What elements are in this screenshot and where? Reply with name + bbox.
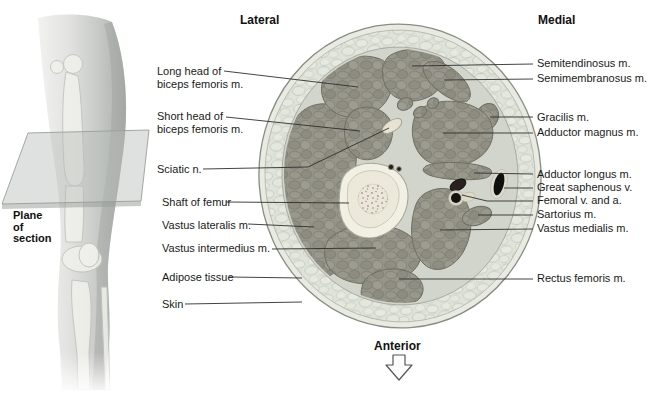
label-sciatic-nerve: Sciatic n. [157, 163, 202, 176]
patella [79, 243, 99, 267]
label-vastus-lateralis: Vastus lateralis m. [162, 219, 251, 232]
label-gracilis: Gracilis m. [537, 111, 589, 124]
label-great-saphenous-vein: Great saphenous v. [537, 181, 632, 194]
plane-label-line: section [13, 233, 52, 245]
label-semitendinosus: Semitendinosus m. [537, 57, 631, 70]
leader-skin [185, 302, 302, 304]
label-adductor-magnus: Adductor magnus m. [537, 126, 639, 139]
femoral-vein-vessel [451, 193, 461, 203]
bone-marrow [358, 184, 388, 214]
perforating-vessel-1 [388, 164, 393, 169]
anterior-arrow-icon [386, 355, 412, 380]
label-adductor-longus: Adductor longus m. [537, 168, 632, 181]
leader-adipose-tissue [229, 277, 302, 278]
label-sartorius: Sartorius m. [537, 208, 596, 221]
anterior-heading: Anterior [374, 339, 421, 353]
leg-bottom-fade [0, 352, 160, 396]
greater-trochanter [51, 61, 64, 74]
label-vastus-intermedius: Vastus intermedius m. [162, 242, 270, 255]
label-short-head-biceps-femoris: Short head of biceps femoris m. [157, 110, 243, 136]
section-plane [2, 130, 149, 204]
label-vastus-medialis: Vastus medialis m. [537, 222, 629, 235]
label-long-head-biceps-femoris: Long head of biceps femoris m. [157, 65, 243, 91]
perforating-vessel-2 [397, 167, 402, 172]
medial-heading: Medial [538, 13, 575, 27]
label-adipose-tissue: Adipose tissue [162, 271, 234, 284]
label-rectus-femoris: Rectus femoris m. [537, 272, 626, 285]
label-semimembranosus: Semimembranosus m. [537, 72, 647, 85]
leg-illustration [0, 15, 160, 396]
figure-thigh-cross-section: Lateral Medial Anterior Plane of section… [0, 0, 651, 396]
label-skin: Skin [162, 298, 183, 311]
label-femoral-vein-artery: Femoral v. and a. [537, 194, 622, 207]
plane-of-section-label: Plane of section [13, 210, 52, 245]
lateral-heading: Lateral [240, 13, 279, 27]
cross-section [249, 15, 552, 338]
plane-label-line: Plane [13, 210, 52, 222]
femur-head [64, 55, 83, 74]
label-shaft-of-femur: Shaft of femur [162, 196, 231, 209]
